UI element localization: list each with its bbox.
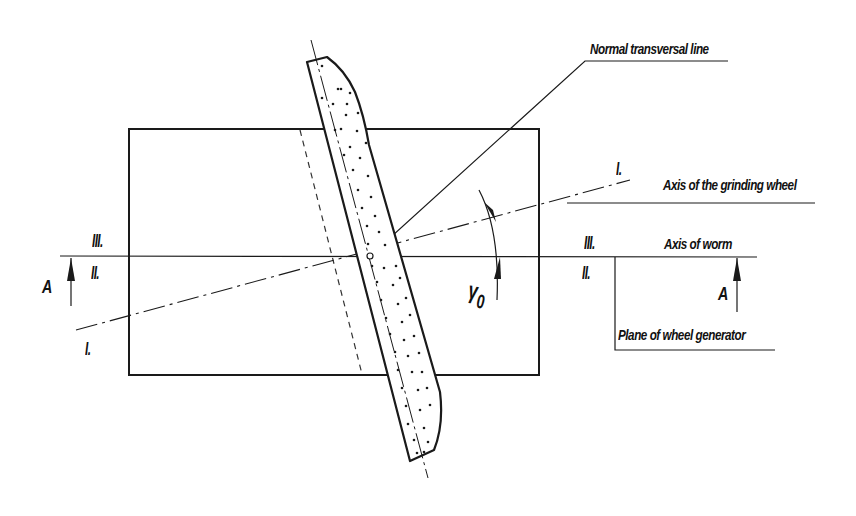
label-axis-grinding-wheel: Axis of the grinding wheel [663,176,796,193]
grinding-wheel-edge [307,57,441,461]
label-roman-III-right: III. [584,232,595,254]
label-angle-gamma: γ0 [467,276,486,307]
intersection-point [367,253,373,259]
label-normal-transversal-line: Normal transversal line [590,40,709,57]
angle-arrow-up-icon [494,257,501,279]
label-roman-II-left: II. [91,262,99,284]
label-plane-wheel-generator: Plane of wheel generator [618,326,745,343]
label-section-A-left: A [42,276,52,298]
label-axis-worm: Axis of worm [664,235,732,252]
worm-axis-line [60,256,757,257]
section-arrow-left-icon [67,258,75,281]
label-roman-I-left: I. [85,338,90,360]
label-roman-III-left: III. [92,230,103,252]
label-roman-II-right: II. [582,262,590,284]
section-arrow-right-icon [733,258,741,281]
normal-transversal-line [370,61,728,256]
label-roman-I-right: I. [616,158,621,180]
label-section-A-right: A [718,283,728,305]
diagram-canvas [0,0,856,516]
